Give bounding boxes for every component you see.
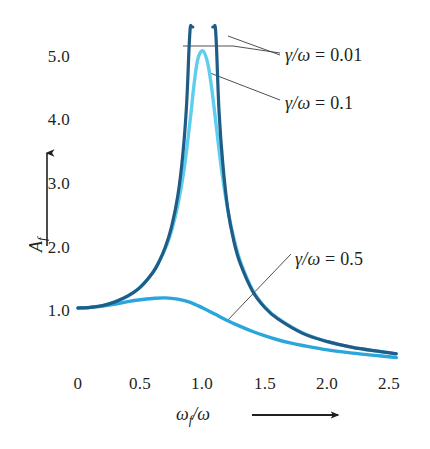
curve-0-01-branch-left [78, 25, 193, 308]
curve-group [78, 25, 396, 357]
leader-line-0-01-b [228, 36, 280, 55]
plot-canvas [0, 0, 430, 449]
curve-0-5 [78, 298, 396, 358]
curve-0-01-branch-right [213, 25, 396, 353]
curve-0-1 [78, 51, 396, 354]
resonance-chart-figure: 5.0 4.0 3.0 2.0 1.0 0 0.5 1.0 1.5 2.0 2.… [0, 0, 430, 449]
leader-line-0-5 [226, 254, 291, 322]
leader-line-0-1 [210, 73, 280, 100]
